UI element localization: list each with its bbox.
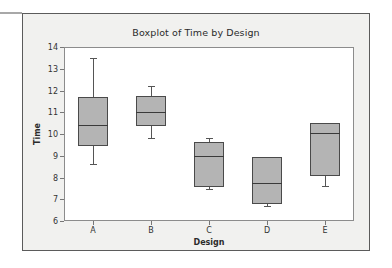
x-tick-label: B bbox=[148, 226, 154, 235]
scan-artifact-dash bbox=[0, 12, 22, 14]
y-tick-mark bbox=[60, 221, 64, 222]
boxplot-box bbox=[136, 96, 166, 126]
lower-whisker bbox=[93, 146, 94, 164]
x-tick-label: E bbox=[322, 226, 327, 235]
upper-whisker-cap bbox=[148, 86, 155, 87]
y-tick-label: 14 bbox=[42, 43, 58, 52]
median-line bbox=[310, 133, 340, 134]
x-tick-mark bbox=[151, 221, 152, 225]
y-tick-label: 10 bbox=[42, 130, 58, 139]
y-tick-mark bbox=[60, 134, 64, 135]
upper-whisker-cap bbox=[206, 138, 213, 139]
lower-whisker-cap bbox=[90, 164, 97, 165]
x-tick-mark bbox=[267, 221, 268, 225]
lower-whisker-cap bbox=[264, 206, 271, 207]
y-tick-label: 9 bbox=[42, 151, 58, 160]
median-line bbox=[252, 183, 282, 184]
x-axis-title: Design bbox=[64, 238, 354, 247]
chart-title: Boxplot of Time by Design bbox=[23, 27, 369, 38]
lower-whisker-cap bbox=[322, 186, 329, 187]
y-tick-mark bbox=[60, 91, 64, 92]
y-tick-label: 11 bbox=[42, 108, 58, 117]
y-tick-label: 8 bbox=[42, 173, 58, 182]
y-tick-mark bbox=[60, 156, 64, 157]
y-tick-mark bbox=[60, 112, 64, 113]
median-line bbox=[194, 156, 224, 157]
x-tick-mark bbox=[93, 221, 94, 225]
boxplot-box bbox=[252, 157, 282, 204]
y-tick-label: 6 bbox=[42, 217, 58, 226]
y-tick-mark bbox=[60, 69, 64, 70]
boxplot-box bbox=[194, 142, 224, 188]
lower-whisker bbox=[325, 176, 326, 186]
lower-whisker-cap bbox=[148, 138, 155, 139]
x-tick-label: D bbox=[264, 226, 270, 235]
upper-whisker-cap bbox=[90, 58, 97, 59]
boxplot-box bbox=[310, 123, 340, 176]
median-line bbox=[78, 125, 108, 126]
boxplot-box bbox=[78, 97, 108, 146]
upper-whisker bbox=[151, 86, 152, 96]
x-tick-label: C bbox=[206, 226, 212, 235]
x-tick-label: A bbox=[90, 226, 95, 235]
y-tick-mark bbox=[60, 199, 64, 200]
lower-whisker-cap bbox=[206, 189, 213, 190]
y-tick-mark bbox=[60, 47, 64, 48]
y-tick-label: 13 bbox=[42, 64, 58, 73]
x-tick-mark bbox=[209, 221, 210, 225]
median-line bbox=[136, 112, 166, 113]
x-tick-mark bbox=[325, 221, 326, 225]
upper-whisker bbox=[93, 58, 94, 97]
y-tick-mark bbox=[60, 178, 64, 179]
lower-whisker bbox=[151, 126, 152, 138]
y-tick-label: 7 bbox=[42, 195, 58, 204]
y-tick-label: 12 bbox=[42, 86, 58, 95]
